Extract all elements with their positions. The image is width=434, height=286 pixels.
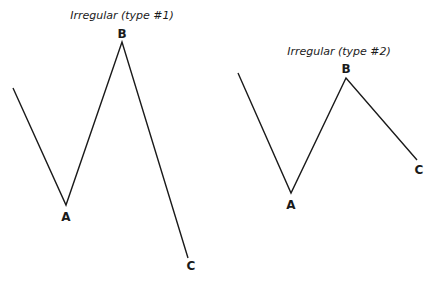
point-label-b: B: [117, 27, 126, 41]
diagram-title: Irregular (type #2): [287, 45, 391, 58]
wave-line: [238, 73, 417, 193]
wave-line: [13, 42, 188, 258]
diagram-irregular-type-2: Irregular (type #2) A B C: [238, 45, 424, 212]
point-label-a: A: [61, 210, 71, 224]
point-label-c: C: [187, 259, 196, 273]
wave-diagram-canvas: Irregular (type #1) A B C Irregular (typ…: [0, 0, 434, 286]
diagram-irregular-type-1: Irregular (type #1) A B C: [13, 9, 196, 273]
point-label-a: A: [286, 198, 296, 212]
diagram-title: Irregular (type #1): [70, 9, 174, 22]
point-label-b: B: [341, 62, 350, 76]
point-label-c: C: [415, 163, 424, 177]
